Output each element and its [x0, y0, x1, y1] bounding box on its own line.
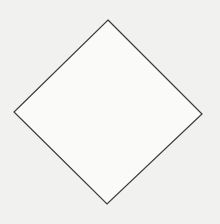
figure-canvas: [0, 0, 220, 224]
diamond-figure-svg: [0, 0, 220, 224]
